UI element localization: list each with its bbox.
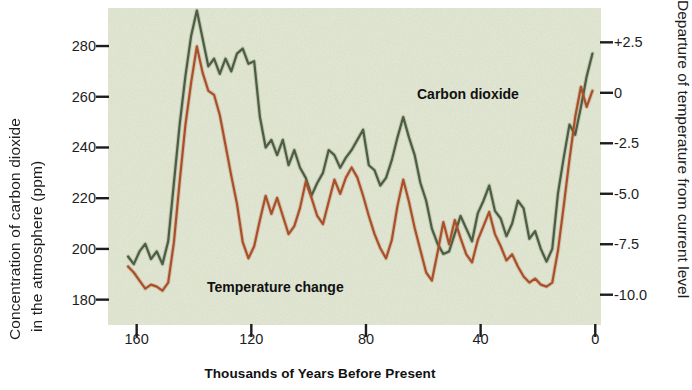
x-tick-0: 0	[591, 331, 599, 347]
x-tick-120: 120	[239, 331, 263, 347]
series-label-temperature-change: Temperature change	[207, 279, 344, 295]
climate-chart-figure: Concentration of carbon dioxide in the a…	[0, 0, 692, 390]
x-tick-40: 40	[473, 331, 489, 347]
x-tick-160: 160	[125, 331, 149, 347]
x-tick-80: 80	[358, 331, 374, 347]
x-axis-title: Thousands of Years Before Present	[0, 366, 640, 381]
series-label-carbon-dioxide: Carbon dioxide	[417, 86, 519, 102]
x-axis-ticks: 16012080400	[0, 0, 692, 390]
